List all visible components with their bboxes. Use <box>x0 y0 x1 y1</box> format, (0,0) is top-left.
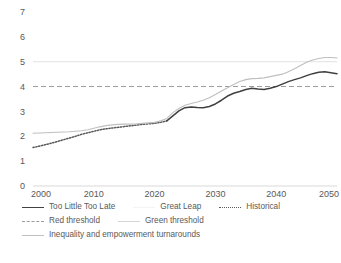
y-axis-tick: 2 <box>20 131 25 141</box>
legend-label: Great Leap <box>160 202 201 212</box>
y-axis-tick: 7 <box>20 7 25 17</box>
legend-item-historical[interactable]: Historical <box>219 200 280 214</box>
legend-row: Red thresholdGreen threshold <box>0 214 341 228</box>
legend-item-green-threshold[interactable]: Green threshold <box>118 214 204 228</box>
y-axis-tick: 5 <box>20 57 25 67</box>
x-axis-tick: 2050 <box>319 189 339 199</box>
legend-swatch-dotted-icon <box>219 203 241 212</box>
legend-label: Green threshold <box>145 216 204 226</box>
legend-item-red-threshold[interactable]: Red threshold <box>22 214 100 228</box>
data-series <box>33 57 337 147</box>
legend-item-too-little-too-late[interactable]: Too Little Too Late <box>22 200 115 214</box>
x-axis-tick: 2020 <box>145 189 165 199</box>
series-line-historical <box>33 121 167 148</box>
chart-plot-area: 76543210 200020102020203020402050 <box>0 0 341 205</box>
y-axis-tick: 0 <box>20 181 25 191</box>
legend-swatch-solid-mid-icon <box>22 231 44 240</box>
x-axis-tick: 2030 <box>205 189 225 199</box>
legend-swatch-dashed-icon <box>22 217 44 226</box>
y-axis-tick: 1 <box>20 156 25 166</box>
legend-label: Inequality and empowerment turnarounds <box>49 230 200 240</box>
legend-row: Inequality and empowerment turnarounds <box>0 228 341 242</box>
legend-swatch-solid-dark-icon <box>22 203 44 212</box>
legend-label: Red threshold <box>49 216 100 226</box>
legend-swatch-solid-light-icon <box>118 217 140 226</box>
x-axis-tick-labels: 200020102020203020402050 <box>31 189 339 199</box>
series-line-inequality-and-empowerment-turnarounds <box>33 57 337 133</box>
threshold-lines <box>33 62 337 87</box>
legend-row: Too Little Too LateGreat LeapHistorical <box>0 200 341 214</box>
legend-swatch-solid-faint-icon <box>133 203 155 212</box>
legend-item-great-leap[interactable]: Great Leap <box>133 200 201 214</box>
legend-item-inequality-and-empowerment-turnarounds[interactable]: Inequality and empowerment turnarounds <box>22 228 200 242</box>
line-chart: 76543210 200020102020203020402050 Too Li… <box>0 0 341 263</box>
y-axis-tick: 4 <box>20 82 25 92</box>
legend-label: Historical <box>246 202 280 212</box>
y-axis-tick: 6 <box>20 32 25 42</box>
legend-label: Too Little Too Late <box>49 202 115 212</box>
x-axis-tick: 2040 <box>266 189 286 199</box>
chart-legend: Too Little Too LateGreat LeapHistoricalR… <box>0 200 341 263</box>
y-axis-tick-labels: 76543210 <box>20 7 25 191</box>
x-axis-tick: 2000 <box>31 189 51 199</box>
y-axis-tick: 3 <box>20 107 25 117</box>
x-axis-tick: 2010 <box>84 189 104 199</box>
